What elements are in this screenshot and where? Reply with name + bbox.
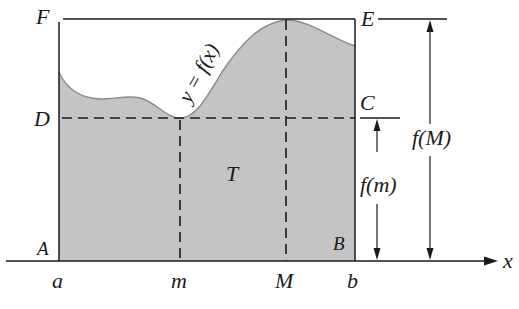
x-axis-arrowhead xyxy=(484,257,498,266)
f-m-arrowhead-down xyxy=(374,248,381,260)
mean-value-diagram: F E D C A B T a m M b x f(m) f(M) y = f(… xyxy=(0,0,519,309)
label-T: T xyxy=(226,161,240,186)
label-f-M: f(M) xyxy=(412,125,451,150)
label-B: B xyxy=(333,233,345,254)
label-C: C xyxy=(360,90,375,115)
tick-M: M xyxy=(274,268,295,293)
label-f-m: f(m) xyxy=(360,172,397,197)
label-F: F xyxy=(35,4,50,29)
tick-b: b xyxy=(347,268,358,293)
tick-m: m xyxy=(171,268,187,293)
axis-label-x: x xyxy=(502,248,513,273)
label-E: E xyxy=(360,6,375,31)
f-m-arrowhead-up xyxy=(374,119,381,131)
f-M-arrowhead-up xyxy=(427,20,434,32)
tick-a: a xyxy=(52,268,63,293)
label-A: A xyxy=(35,238,49,259)
f-M-arrowhead-down xyxy=(427,248,434,260)
label-D: D xyxy=(33,106,50,131)
